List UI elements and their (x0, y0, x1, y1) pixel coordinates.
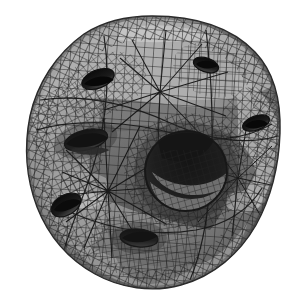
surface-render-canvas (0, 0, 298, 304)
mesh-figure (0, 0, 298, 304)
